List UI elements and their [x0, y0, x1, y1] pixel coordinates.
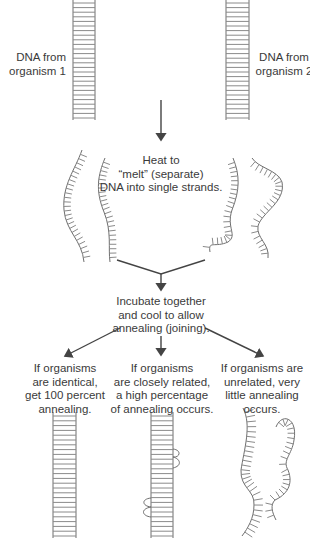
label-identical: If organismsare identical,get 100 percen… — [20, 362, 110, 416]
dna-double-strand-organism-2 — [226, 0, 249, 120]
label-incubate: Incubate togetherand cool to allowanneal… — [96, 295, 226, 336]
dna-double-strand-organism-1 — [73, 0, 95, 120]
dna-little-annealing — [241, 408, 295, 537]
label-dna-organism-2: DNA fromorganism 2 — [252, 51, 310, 78]
dna-mostly-annealed — [143, 412, 179, 538]
combine-fork — [117, 260, 205, 274]
label-dna-organism-1: DNA fromorganism 1 — [2, 51, 66, 78]
dna-fully-annealed — [53, 412, 76, 538]
dna-hybridization-diagram — [0, 0, 310, 538]
label-unrelated: If organisms areunrelated, verylittle an… — [214, 362, 310, 416]
label-closely-related: If organismsare closely related,a high p… — [110, 362, 214, 416]
label-heat-melt: Heat to“melt” (separate)DNA into single … — [96, 154, 226, 195]
